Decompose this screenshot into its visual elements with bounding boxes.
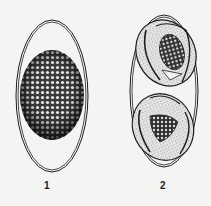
figure-label-1: 1: [44, 181, 50, 191]
figure-label-2: 2: [160, 181, 166, 191]
egg-2: [121, 9, 207, 170]
egg-1-mass-shading: [20, 50, 84, 140]
egg-2-upper-embryo: [124, 9, 207, 96]
egg-1: [16, 20, 88, 172]
egg-2-lower-embryo: [121, 84, 204, 171]
egg-illustration: [0, 0, 211, 206]
